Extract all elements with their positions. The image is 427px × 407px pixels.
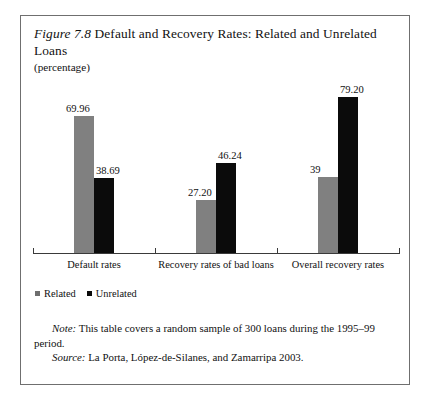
legend-item-unrelated: Unrelated xyxy=(87,288,137,299)
x-axis-tick-end xyxy=(399,248,400,254)
legend-label-unrelated: Unrelated xyxy=(96,288,137,299)
bar-overall-recovery-rates-unrelated xyxy=(338,97,358,254)
bar-recovery-rates-of-bad-loans-related xyxy=(196,200,216,254)
source-text: La Porta, López-de-Silanes, and Zamarrip… xyxy=(88,351,303,363)
footnotes: Note: This table covers a random sample … xyxy=(34,321,394,365)
note-lead: Note: xyxy=(52,322,76,334)
x-axis-tick xyxy=(277,248,278,254)
source-lead: Source: xyxy=(52,351,85,363)
category-label: Default rates xyxy=(33,259,155,270)
bar-value-label: 46.24 xyxy=(218,150,242,161)
category-label: Overall recovery rates xyxy=(277,259,399,270)
bar-value-label: 79.20 xyxy=(340,84,364,95)
bar-overall-recovery-rates-related xyxy=(318,177,338,254)
figure-frame: Figure 7.8 Default and Recovery Rates: R… xyxy=(20,15,410,385)
bar-value-label: 69.96 xyxy=(66,103,90,114)
bar-value-label: 39 xyxy=(310,164,321,175)
square-marker-icon xyxy=(87,291,92,296)
bar-value-label: 27.20 xyxy=(188,187,212,198)
source-line: Source: La Porta, López-de-Silanes, and … xyxy=(34,350,394,365)
chart-legend: Related Unrelated xyxy=(35,288,137,299)
legend-label-related: Related xyxy=(44,288,76,299)
x-axis-tick xyxy=(155,248,156,254)
category-label: Recovery rates of bad loans xyxy=(155,259,277,270)
legend-item-related: Related xyxy=(35,288,76,299)
x-axis-tick xyxy=(33,248,34,254)
bar-default-rates-related xyxy=(74,116,94,254)
square-marker-icon xyxy=(35,291,40,296)
note-line: Note: This table covers a random sample … xyxy=(34,321,394,350)
bar-default-rates-unrelated xyxy=(94,178,114,254)
bar-value-label: 38.69 xyxy=(96,165,120,176)
x-axis-line xyxy=(33,253,399,254)
plot-area: 69.9638.6927.2046.243979.20 xyxy=(33,86,399,254)
note-text: This table covers a random sample of 300… xyxy=(34,322,375,349)
bar-recovery-rates-of-bad-loans-unrelated xyxy=(216,163,236,254)
